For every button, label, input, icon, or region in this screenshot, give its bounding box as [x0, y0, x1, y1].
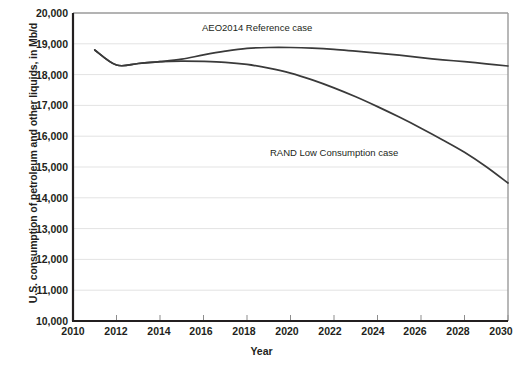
series-paths — [95, 47, 508, 183]
series-line-aeo2014 — [95, 47, 508, 66]
plot-area — [0, 0, 523, 367]
series-line-rand — [95, 50, 508, 183]
chart-figure: U.S. consumption of petroleum and other … — [0, 0, 523, 367]
gridlines — [73, 13, 508, 290]
